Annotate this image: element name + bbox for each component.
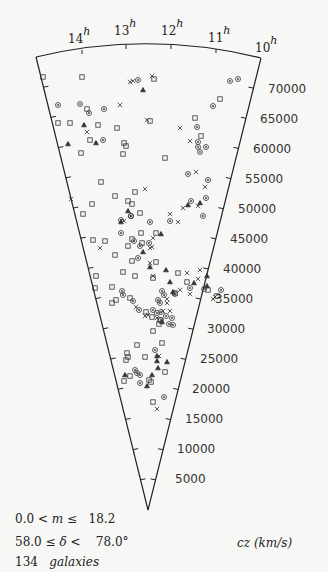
galaxy-x-marker bbox=[98, 246, 102, 250]
galaxy-square-marker bbox=[163, 370, 167, 374]
galaxy-triangle-marker bbox=[126, 209, 131, 213]
galaxy-count: 134 galaxies bbox=[15, 555, 99, 569]
galaxy-square-marker bbox=[151, 400, 155, 404]
cz-label-5000: 5000 bbox=[175, 472, 206, 486]
galaxy-triangle-marker bbox=[123, 373, 128, 377]
galaxy-square-marker bbox=[176, 271, 180, 275]
galaxy-square-marker bbox=[154, 260, 158, 264]
galaxy-triangle-marker bbox=[165, 360, 170, 364]
galaxy-square-marker bbox=[218, 97, 222, 101]
cz-tick-right bbox=[241, 117, 246, 118]
galaxy-triangle-marker bbox=[150, 373, 155, 377]
galaxy-circle-dot bbox=[168, 323, 169, 324]
galaxy-circle-dot bbox=[220, 289, 221, 290]
galaxy-square-marker bbox=[91, 238, 95, 242]
galaxy-triangle-marker bbox=[159, 232, 164, 236]
galaxy-square-marker bbox=[99, 180, 103, 184]
ra-label-14h: 14h bbox=[68, 28, 90, 46]
galaxy-triangle-marker bbox=[94, 141, 99, 145]
galaxy-triangle-marker bbox=[156, 366, 161, 370]
magnitude-range: 0.0 < m ≤ 18.2 bbox=[15, 512, 115, 526]
galaxy-x-marker bbox=[181, 206, 185, 210]
galaxy-x-marker bbox=[161, 309, 165, 313]
cz-tick-right bbox=[166, 419, 171, 420]
galaxy-triangle-marker bbox=[66, 142, 71, 146]
galaxy-circle-dot bbox=[189, 287, 190, 288]
galaxy-circle-dot bbox=[165, 315, 166, 316]
galaxy-circle-dot bbox=[172, 324, 173, 325]
ra-label-12h: 12h bbox=[161, 20, 183, 38]
galaxy-circle-dot bbox=[163, 294, 164, 295]
cz-tick-left bbox=[73, 207, 78, 208]
cz-tick-left bbox=[43, 86, 48, 87]
cz-label-40000: 40000 bbox=[223, 262, 261, 276]
cz-tick-left bbox=[58, 147, 63, 148]
cz-tick-left bbox=[141, 479, 146, 480]
galaxy-square-marker bbox=[133, 274, 137, 278]
galaxy-square-marker bbox=[79, 151, 83, 155]
galaxy-triangle-marker bbox=[82, 123, 87, 127]
galaxy-circle-dot bbox=[229, 80, 230, 81]
galaxy-square-marker bbox=[130, 259, 134, 263]
galaxy-square-marker bbox=[138, 211, 142, 215]
galaxy-x-marker bbox=[165, 297, 169, 301]
galaxy-circle-dot bbox=[88, 112, 89, 113]
galaxy-circle-dot bbox=[149, 221, 150, 222]
galaxy-x-marker bbox=[178, 126, 182, 130]
cz-label-65000: 65000 bbox=[260, 112, 298, 126]
galaxy-circle-dot bbox=[134, 369, 135, 370]
galaxy-circle-dot bbox=[197, 146, 198, 147]
galaxy-x-marker bbox=[143, 187, 147, 191]
galaxy-square-marker bbox=[151, 329, 155, 333]
galaxy-circle-dot bbox=[57, 104, 58, 105]
cz-tick-right bbox=[173, 388, 178, 389]
galaxy-x-marker bbox=[178, 288, 182, 292]
galaxy-square-marker bbox=[143, 355, 147, 359]
ra-label-11h: 11h bbox=[208, 27, 230, 45]
galaxy-x-marker bbox=[85, 130, 89, 134]
cz-label-20000: 20000 bbox=[192, 382, 230, 396]
galaxy-circle-dot bbox=[205, 146, 206, 147]
galaxy-square-marker bbox=[103, 239, 107, 243]
galaxy-square-marker bbox=[135, 343, 139, 347]
galaxy-square-marker bbox=[68, 121, 72, 125]
galaxy-circle-dot bbox=[237, 78, 238, 79]
galaxy-x-marker bbox=[196, 277, 200, 281]
galaxy-square-marker bbox=[163, 156, 167, 160]
galaxy-circle-dot bbox=[152, 309, 153, 310]
cz-tick-left bbox=[96, 298, 101, 299]
galaxy-x-marker bbox=[134, 305, 138, 309]
galaxy-square-marker bbox=[128, 296, 132, 300]
galaxy-square-marker bbox=[121, 152, 125, 156]
galaxy-square-marker bbox=[113, 253, 117, 257]
galaxy-circle-dot bbox=[163, 396, 164, 397]
galaxy-triangle-marker bbox=[141, 250, 146, 254]
galaxy-square-marker bbox=[96, 123, 100, 127]
galaxy-circle-dot bbox=[207, 179, 208, 180]
cz-label-55000: 55000 bbox=[245, 172, 283, 186]
galaxy-circle-dot bbox=[154, 349, 155, 350]
galaxy-x-marker bbox=[155, 407, 159, 411]
galaxy-triangle-marker bbox=[192, 281, 197, 285]
galaxy-circle-dot bbox=[202, 215, 203, 216]
galaxy-x-marker bbox=[203, 185, 207, 189]
galaxy-triangle-marker bbox=[141, 88, 146, 92]
galaxy-x-marker bbox=[168, 309, 172, 313]
cz-tick-right bbox=[218, 208, 223, 209]
galaxy-square-marker bbox=[199, 134, 203, 138]
galaxy-x-marker bbox=[165, 301, 169, 305]
cz-label-60000: 60000 bbox=[253, 142, 291, 156]
galaxy-circle-dot bbox=[148, 242, 149, 243]
cz-tick-right bbox=[151, 479, 156, 480]
galaxy-triangle-marker bbox=[198, 201, 203, 205]
cz-tick-right bbox=[226, 178, 231, 179]
galaxy-square-marker bbox=[56, 121, 60, 125]
cz-tick-left bbox=[133, 449, 138, 450]
galaxy-x-marker bbox=[176, 220, 180, 224]
galaxy-x-marker bbox=[168, 212, 172, 216]
cz-tick-right bbox=[211, 238, 216, 239]
galaxy-circle-dot bbox=[120, 232, 121, 233]
cz-label-45000: 45000 bbox=[230, 232, 268, 246]
galaxy-triangle-marker bbox=[155, 359, 160, 363]
galaxy-circle-dot bbox=[120, 219, 121, 220]
